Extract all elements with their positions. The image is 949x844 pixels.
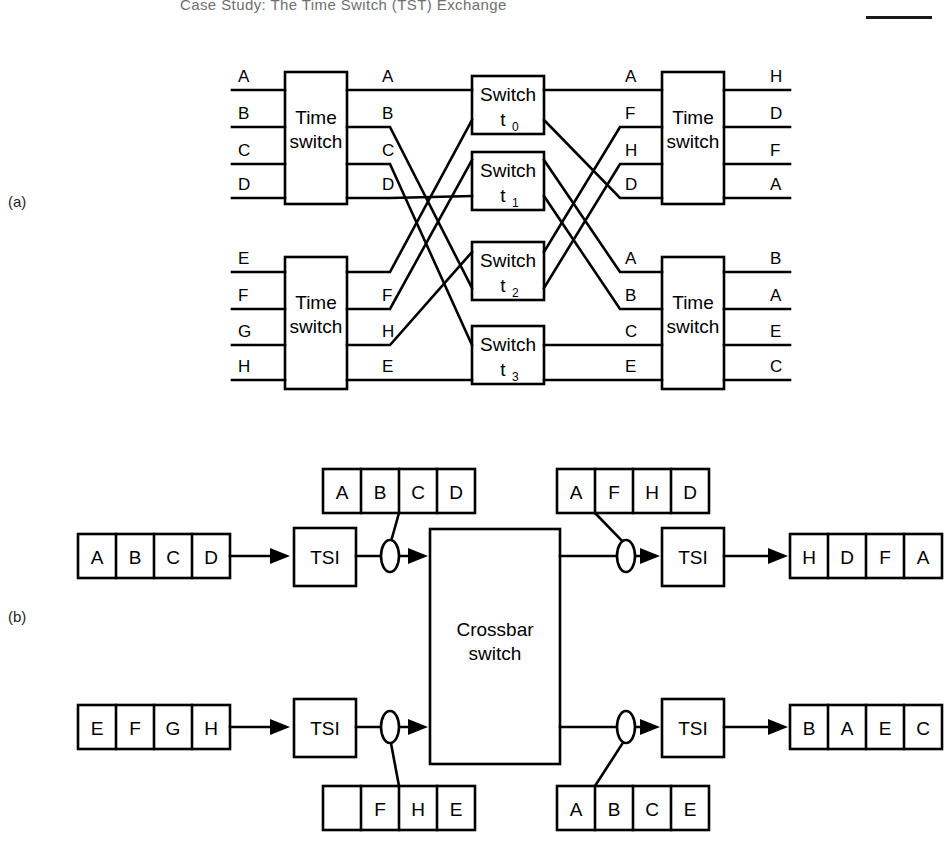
label-br-out-4: C — [770, 357, 782, 376]
leader-bot-pre — [390, 738, 399, 786]
label-input-c: C — [238, 141, 250, 160]
time-switch-top-right-label-1: Time — [672, 107, 714, 128]
arrow-top-mid2 — [640, 548, 660, 564]
tsi-label-bottom-right: TSI — [678, 718, 708, 739]
figure-tst-switch: Case Study: The Time Switch (TST) Exchan… — [0, 0, 949, 844]
leader-top-post — [595, 513, 626, 545]
cell-input-top-0: A — [91, 547, 104, 568]
time-switch-bottom-left-label-1: Time — [295, 292, 337, 313]
figure-canvas: Time switch Time switch Time switch Time… — [0, 0, 949, 844]
arrow-top-mid — [408, 548, 428, 564]
space-switch-t3-index: 3 — [512, 370, 519, 384]
cell-input-top-3: D — [204, 547, 218, 568]
cell-precallout-bottom-2: H — [411, 799, 425, 820]
label-tr-out-2: D — [770, 104, 782, 123]
space-switch-t3-label: Switch — [480, 334, 536, 355]
label-input-f: F — [238, 286, 248, 305]
space-switch-t1-index: 1 — [512, 196, 519, 210]
cell-output-top-3: A — [917, 547, 930, 568]
wire-t1-to-br-in2 — [544, 196, 662, 309]
cell-precallout-bottom-1: F — [374, 799, 386, 820]
time-switch-top-left-label-2: switch — [290, 131, 343, 152]
arrow-bot-mid — [408, 719, 428, 735]
tap-marker-top-right — [617, 540, 635, 572]
arrow-bot-in — [270, 719, 290, 735]
space-switch-t3-var: t — [500, 359, 506, 380]
label-bl-out-4: E — [382, 357, 393, 376]
label-input-g: G — [238, 322, 251, 341]
time-switch-bottom-right-label-2: switch — [667, 316, 720, 337]
cell-precallout-top-2: C — [411, 482, 425, 503]
label-tr-in-3: H — [625, 141, 637, 160]
label-br-in-4: E — [625, 357, 636, 376]
cell-input-top-2: C — [166, 547, 180, 568]
label-input-a: A — [238, 67, 250, 86]
label-tl-out-2: B — [382, 104, 393, 123]
time-switch-top-right-label-2: switch — [667, 131, 720, 152]
cell-postcallout-top-2: H — [645, 482, 659, 503]
cell-postcallout-bottom-0: A — [570, 799, 583, 820]
arrow-top-in — [270, 548, 290, 564]
label-input-e: E — [238, 249, 249, 268]
cell-postcallout-top-1: F — [608, 482, 620, 503]
cell-postcallout-top-3: D — [683, 482, 697, 503]
arrow-bot-out — [768, 719, 788, 735]
label-br-in-1: A — [625, 249, 637, 268]
cell-input-top-1: B — [129, 547, 142, 568]
label-br-in-3: C — [625, 322, 637, 341]
cell-postcallout-bottom-1: B — [608, 799, 621, 820]
label-br-out-2: A — [770, 286, 782, 305]
cell-output-top-2: F — [879, 547, 891, 568]
tap-marker-bottom-right — [617, 711, 635, 743]
label-br-in-2: B — [625, 286, 636, 305]
cell-input-bottom-1: F — [129, 718, 141, 739]
wire-t1-to-br-in1 — [544, 160, 662, 272]
label-bl-out-2: F — [382, 286, 392, 305]
space-switch-t1-label: Switch — [480, 160, 536, 181]
cell-output-bottom-1: A — [841, 718, 854, 739]
time-switch-bottom-left-label-2: switch — [290, 316, 343, 337]
tsi-label-bottom-left: TSI — [310, 718, 340, 739]
cell-output-bottom-2: E — [879, 718, 892, 739]
label-tr-in-2: F — [625, 104, 635, 123]
label-tr-in-1: A — [625, 67, 637, 86]
label-input-d: D — [238, 175, 250, 194]
tsi-label-top-right: TSI — [678, 547, 708, 568]
space-switch-t0-index: 0 — [512, 120, 519, 134]
tsi-label-top-left: TSI — [310, 547, 340, 568]
space-switch-t2-label: Switch — [480, 250, 536, 271]
cell-output-top-0: H — [802, 547, 816, 568]
cell-postcallout-bottom-2: C — [645, 799, 659, 820]
space-switch-t0-var: t — [500, 109, 506, 130]
wire-tl-out3-to-t3 — [347, 164, 472, 345]
time-switch-bottom-right-label-1: Time — [672, 292, 714, 313]
wire-bl-out3-to-t2 — [347, 252, 472, 345]
cell-postcallout-bottom-3: E — [684, 799, 697, 820]
leader-bot-post — [595, 738, 626, 786]
label-bl-out-3: H — [382, 322, 394, 341]
space-switch-t1-var: t — [500, 185, 506, 206]
tap-marker-bottom-left — [381, 711, 399, 743]
cell-precallout-bottom-3: E — [450, 799, 463, 820]
cell-output-bottom-0: B — [803, 718, 816, 739]
label-input-h: H — [238, 357, 250, 376]
label-tr-out-4: A — [770, 175, 782, 194]
cell-output-bottom-3: C — [916, 718, 930, 739]
label-br-out-1: B — [770, 249, 781, 268]
crossbar-label-2: switch — [469, 643, 522, 664]
cell-output-top-1: D — [840, 547, 854, 568]
cell-precallout-top-3: D — [449, 482, 463, 503]
arrow-bot-mid2 — [640, 719, 660, 735]
space-switch-t0-label: Switch — [480, 84, 536, 105]
cell-precallout-top-1: B — [374, 482, 387, 503]
label-tl-out-3: C — [382, 141, 394, 160]
label-br-out-3: E — [770, 322, 781, 341]
cell-input-bottom-0: E — [91, 718, 104, 739]
arrow-top-out — [768, 548, 788, 564]
cell-input-bottom-3: H — [204, 718, 218, 739]
space-switch-t2-var: t — [500, 275, 506, 296]
time-switch-top-left-label-1: Time — [295, 107, 337, 128]
label-tl-out-4: D — [382, 175, 394, 194]
wire-t2-to-tr-in3 — [544, 164, 662, 288]
space-switch-t2-index: 2 — [512, 286, 519, 300]
